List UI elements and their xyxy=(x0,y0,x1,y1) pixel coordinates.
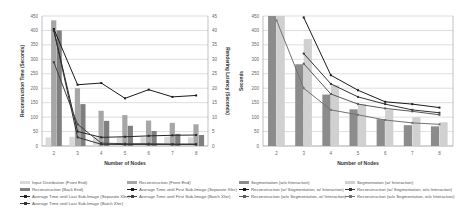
left-legend: Input Distribution (Front End)Reconstruc… xyxy=(0,0,235,208)
legend-label: Segmentation (w/ Interaction) xyxy=(357,179,413,186)
legend-label: Reconstruction (w/o Segmentation, w/ Int… xyxy=(251,193,346,200)
legend-item: Average Time until Last Sub-Image (Separ… xyxy=(20,193,130,200)
legend-line-marker xyxy=(127,196,137,197)
legend-item: Reconstruction (w/ Segmentation, w/ Inte… xyxy=(239,186,344,193)
legend-item: Segmentation (w/o Interaction) xyxy=(239,179,310,186)
legend-item: Reconstruction (w/o Segmentation, w/ Int… xyxy=(239,193,346,200)
legend-item: Reconstruction (w/o Segmentation, w/o In… xyxy=(345,193,454,200)
legend-item: Input Distribution (Front End) xyxy=(20,179,87,186)
legend-line-marker xyxy=(20,203,30,204)
legend-label: Reconstruction (Front End) xyxy=(139,179,191,186)
legend-label: Average Time until Last Sub-Image (Separ… xyxy=(32,193,130,200)
legend-line-marker xyxy=(345,196,355,197)
legend-swatch xyxy=(127,181,137,184)
right-legend: Segmentation (w/o Interaction)Segmentati… xyxy=(235,0,471,208)
legend-label: Average Time until First Sub-Image (Batc… xyxy=(139,193,230,200)
legend-item: Average Time until Last Sub-Image (Batch… xyxy=(20,200,123,207)
legend-label: Reconstruction (w/o Segmentation, w/o In… xyxy=(357,193,454,200)
legend-item: Average Time until First Sub-Image (Batc… xyxy=(127,193,230,200)
legend-line-marker xyxy=(239,196,249,197)
legend-label: Input Distribution (Front End) xyxy=(32,179,87,186)
legend-label: Reconstruction (w/ Segmentation, w/ Inte… xyxy=(251,186,344,193)
legend-item: Average Time until First Sub-Image (Sepa… xyxy=(127,186,237,193)
legend-line-marker xyxy=(239,189,249,190)
legend-line-marker xyxy=(127,189,137,190)
legend-item: Segmentation (w/ Interaction) xyxy=(345,179,413,186)
legend-label: Average Time until Last Sub-Image (Batch… xyxy=(32,200,123,207)
legend-label: Reconstruction (Back End) xyxy=(32,186,83,193)
legend-item: Reconstruction (Back End) xyxy=(20,186,83,193)
legend-swatch xyxy=(20,188,30,191)
legend-line-marker xyxy=(345,189,355,190)
legend-item: Reconstruction (w/ Segmentation, w/o Int… xyxy=(345,186,452,193)
legend-label: Reconstruction (w/ Segmentation, w/o Int… xyxy=(357,186,452,193)
legend-label: Segmentation (w/o Interaction) xyxy=(251,179,310,186)
legend-swatch xyxy=(239,181,249,184)
legend-swatch xyxy=(345,181,355,184)
legend-label: Average Time until First Sub-Image (Sepa… xyxy=(139,186,237,193)
legend-swatch xyxy=(20,181,30,184)
legend-item: Reconstruction (Front End) xyxy=(127,179,191,186)
legend-line-marker xyxy=(20,196,30,197)
